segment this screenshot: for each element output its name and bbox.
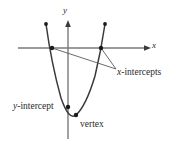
y-intercept-point (66, 105, 70, 109)
curve-endpoint-left (44, 22, 48, 26)
vertex-label: vertex (80, 120, 104, 130)
x-intercepts-label: x-intercepts (117, 68, 161, 78)
parabola-curve (46, 24, 105, 116)
y-intercept-label: y-intercept (13, 102, 54, 112)
x-intercept-right-point (99, 46, 103, 50)
x-intercepts-label-rest: -intercepts (121, 67, 161, 77)
y-axis-label: y (63, 6, 67, 15)
y-axis-arrowhead (65, 20, 71, 27)
y-axis (65, 20, 71, 139)
vertex-point (74, 113, 78, 117)
x-axis (18, 45, 151, 51)
x-intercept-left-point (50, 46, 54, 50)
curve-endpoint-right (103, 22, 107, 26)
x-intercepts-leader-lines (52, 48, 116, 69)
parabola-figure: y x x-intercepts y-intercept vertex (0, 0, 174, 141)
y-intercept-label-rest: -intercept (17, 101, 53, 111)
x-axis-label: x (152, 41, 156, 50)
x-axis-arrowhead (144, 45, 151, 51)
